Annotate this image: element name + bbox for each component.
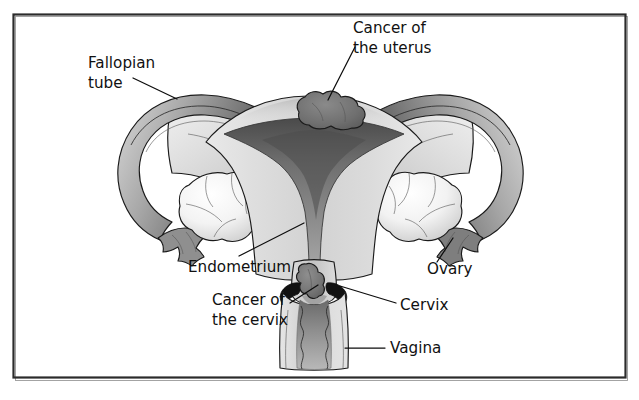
anatomy-figure: Fallopian tube Cancer of the uterus Endo… xyxy=(0,0,639,400)
leader-cervix xyxy=(340,286,396,303)
anatomy-illustration-canvas: Fallopian tube Cancer of the uterus Endo… xyxy=(0,0,639,400)
svg-text:Cancer of: Cancer of xyxy=(353,19,427,37)
svg-text:Ovary: Ovary xyxy=(427,260,472,278)
label-ovary-line-0: Ovary xyxy=(427,260,472,278)
label-ovary: Ovary xyxy=(427,260,472,278)
label-endometrium-line-0: Endometrium xyxy=(188,258,291,276)
leader-cancer-uterus xyxy=(328,47,355,100)
label-endometrium: Endometrium xyxy=(188,258,291,276)
uterine-tumor-mass xyxy=(297,91,365,130)
svg-text:the cervix: the cervix xyxy=(212,311,288,329)
label-cervix-line-0: Cervix xyxy=(400,296,448,314)
label-vagina-line-0: Vagina xyxy=(390,339,441,357)
svg-text:Vagina: Vagina xyxy=(390,339,441,357)
label-fallopian-tube-line-1: tube xyxy=(88,74,123,92)
label-cervix: Cervix xyxy=(400,296,448,314)
label-cancer-uterus-line-0: Cancer of xyxy=(353,19,427,37)
svg-text:Endometrium: Endometrium xyxy=(188,258,291,276)
svg-text:Cervix: Cervix xyxy=(400,296,448,314)
label-cancer-of-the-cervix: Cancer of the cervix xyxy=(212,291,288,329)
label-cancer-uterus-line-1: the uterus xyxy=(353,39,432,57)
svg-text:Fallopian: Fallopian xyxy=(88,54,155,72)
label-fallopian-tube: Fallopian tube xyxy=(88,54,155,92)
label-cancer-of-the-uterus: Cancer of the uterus xyxy=(353,19,432,57)
svg-text:tube: tube xyxy=(88,74,123,92)
label-vagina: Vagina xyxy=(390,339,441,357)
svg-text:Cancer of: Cancer of xyxy=(212,291,286,309)
leader-fallopian-tube xyxy=(133,78,177,99)
svg-text:the uterus: the uterus xyxy=(353,39,432,57)
label-cancer-cervix-line-0: Cancer of xyxy=(212,291,286,309)
label-cancer-cervix-line-1: the cervix xyxy=(212,311,288,329)
label-fallopian-tube-line-0: Fallopian xyxy=(88,54,155,72)
